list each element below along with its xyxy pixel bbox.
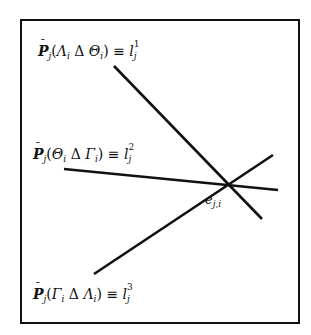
- label-line-3: ¯Pj(Γi Δ Λi) ≡ l3j: [33, 287, 134, 304]
- set-a: Λ: [57, 43, 67, 59]
- bar-accent: ¯: [35, 281, 41, 292]
- equiv-symbol: ≡: [106, 286, 118, 302]
- set-a: Θ: [52, 146, 63, 162]
- projection-operator: ¯P: [38, 43, 49, 59]
- paren-close: ): [103, 43, 108, 59]
- set-b: Θ: [89, 43, 100, 59]
- line-sup: 2: [128, 143, 134, 152]
- paren-close: ): [96, 286, 101, 302]
- symmetric-difference-operator: Δ: [71, 146, 81, 162]
- intersection-label: ej,i: [205, 192, 221, 209]
- line-index: 2j: [128, 149, 135, 159]
- label-line-1: ¯Pj(Λi Δ Θi) ≡ l1j: [38, 44, 141, 61]
- point-symbol: e: [205, 192, 213, 207]
- set-a-sub: i: [67, 51, 70, 61]
- label-line-2: ¯Pj(Θi Δ Γi) ≡ l2j: [33, 147, 135, 164]
- set-b: Γ: [85, 146, 95, 162]
- equiv-symbol: ≡: [108, 146, 120, 162]
- symmetric-difference-operator: Δ: [69, 286, 79, 302]
- line-index: 3j: [127, 289, 134, 299]
- point-sub: j,i: [213, 199, 222, 209]
- line-sub: j: [127, 295, 130, 304]
- paren-close: ): [98, 146, 103, 162]
- set-a-sub: i: [62, 294, 65, 304]
- set-a: Γ: [52, 286, 62, 302]
- line-sup: 1: [134, 40, 140, 49]
- set-a-sub: i: [63, 154, 66, 164]
- projection-operator: ¯P: [33, 286, 44, 302]
- line-sup: 3: [127, 283, 133, 292]
- line-index: 1j: [134, 46, 141, 56]
- line-sub: j: [128, 155, 131, 164]
- line-l1: [114, 66, 262, 219]
- bar-accent: ¯: [40, 38, 46, 49]
- line-sub: j: [134, 52, 137, 61]
- diagram-canvas: ¯Pj(Λi Δ Θi) ≡ l1j ¯Pj(Θi Δ Γi) ≡ l2j ¯P…: [0, 0, 311, 335]
- symmetric-difference-operator: Δ: [74, 43, 84, 59]
- bar-accent: ¯: [35, 141, 41, 152]
- projection-operator: ¯P: [33, 146, 44, 162]
- set-b: Λ: [83, 286, 93, 302]
- line-l3: [94, 155, 273, 274]
- equiv-symbol: ≡: [113, 43, 125, 59]
